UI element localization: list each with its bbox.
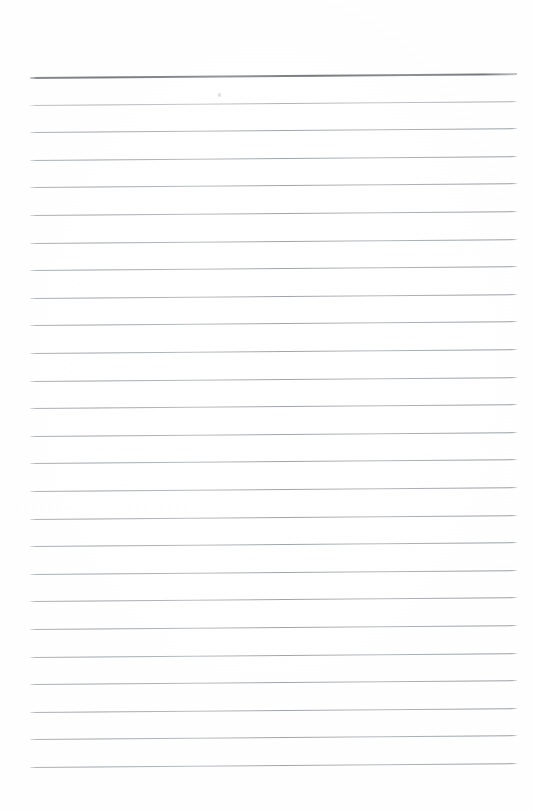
rule-line-ink <box>30 708 517 713</box>
rule-line-ink <box>30 459 517 464</box>
rule-line-ink <box>30 321 517 326</box>
rule-line <box>30 321 517 326</box>
rule-line <box>30 156 517 161</box>
rule-line <box>30 735 517 740</box>
rule-line-ink <box>30 404 517 409</box>
rule-line-ink <box>30 597 517 602</box>
rule-line <box>30 211 517 216</box>
rule-line <box>30 708 517 713</box>
rule-line-ink <box>30 570 517 575</box>
rule-line <box>30 542 517 547</box>
rule-line <box>30 128 517 133</box>
rule-line <box>30 349 517 354</box>
rule-line-ink <box>30 487 517 492</box>
rule-line <box>30 377 517 382</box>
rule-line-ink <box>30 653 517 658</box>
rule-line-ink <box>30 763 517 768</box>
rule-line-ink <box>30 349 517 354</box>
rule-line-ink <box>30 101 517 106</box>
rule-line-ink <box>30 680 517 685</box>
rule-line <box>30 183 517 188</box>
scanned-page <box>0 0 533 811</box>
rule-line <box>30 459 517 464</box>
rule-line <box>30 239 517 244</box>
rule-line-ink <box>30 625 517 630</box>
rule-line-ink <box>30 735 517 740</box>
rule-line-ink <box>30 239 517 244</box>
rule-line <box>30 680 517 685</box>
rule-line-ink <box>30 266 517 271</box>
rule-line-ink <box>30 294 517 299</box>
rule-line <box>30 487 517 492</box>
rule-line-ink <box>30 515 517 520</box>
rule-line-ink <box>30 432 517 437</box>
rule-line <box>30 597 517 602</box>
ruled-line-field <box>0 0 533 811</box>
rule-line <box>30 404 517 409</box>
rule-line <box>30 294 517 299</box>
rule-line-ink <box>30 211 517 216</box>
rule-line-ink <box>30 183 517 188</box>
rule-line-ink <box>30 73 517 79</box>
rule-line <box>30 266 517 271</box>
rule-line <box>30 763 517 768</box>
rule-line-ink <box>30 156 517 161</box>
rule-line-ink <box>30 377 517 382</box>
rule-line <box>30 570 517 575</box>
rule-line-ink <box>30 542 517 547</box>
rule-line <box>30 101 517 106</box>
rule-line-ink <box>30 128 517 133</box>
rule-line <box>30 653 517 658</box>
rule-line <box>30 515 517 520</box>
rule-line <box>30 625 517 630</box>
header-rule-line <box>30 73 517 79</box>
rule-line <box>30 432 517 437</box>
